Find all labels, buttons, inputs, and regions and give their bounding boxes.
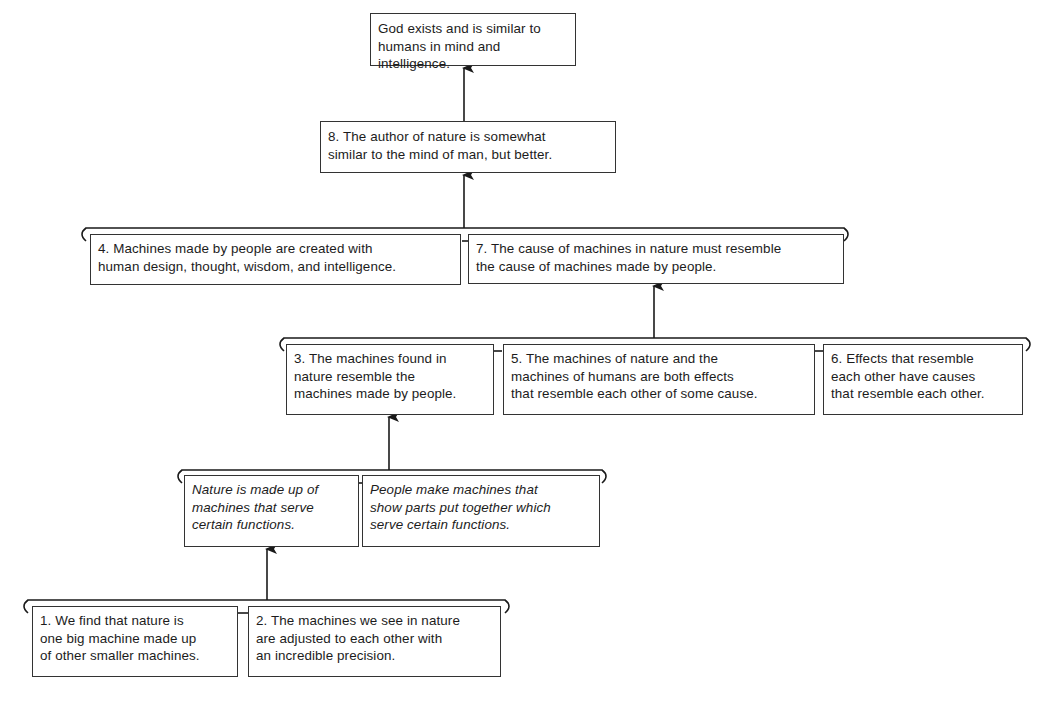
premise-1-box: 1. We find that nature is one big machin… (32, 606, 238, 677)
premise-7-box: 7. The cause of machines in nature must … (468, 234, 844, 284)
conclusion-box: God exists and is similar to humans in m… (370, 13, 576, 66)
premise-4-box: 4. Machines made by people are created w… (90, 234, 461, 285)
premise-2-box: 2. The machines we see in nature are adj… (248, 606, 501, 677)
premise-3-box: 3. The machines found in nature resemble… (286, 344, 494, 415)
argument-diagram: God exists and is similar to humans in m… (0, 0, 1058, 706)
premise-8-box: 8. The author of nature is somewhat simi… (320, 121, 616, 173)
subconclusion-nature-box: Nature is made up of machines that serve… (184, 475, 359, 547)
subconclusion-people-box: People make machines that show parts put… (362, 475, 600, 547)
premise-6-box: 6. Effects that resemble each other have… (823, 344, 1023, 415)
premise-5-box: 5. The machines of nature and the machin… (503, 344, 815, 415)
